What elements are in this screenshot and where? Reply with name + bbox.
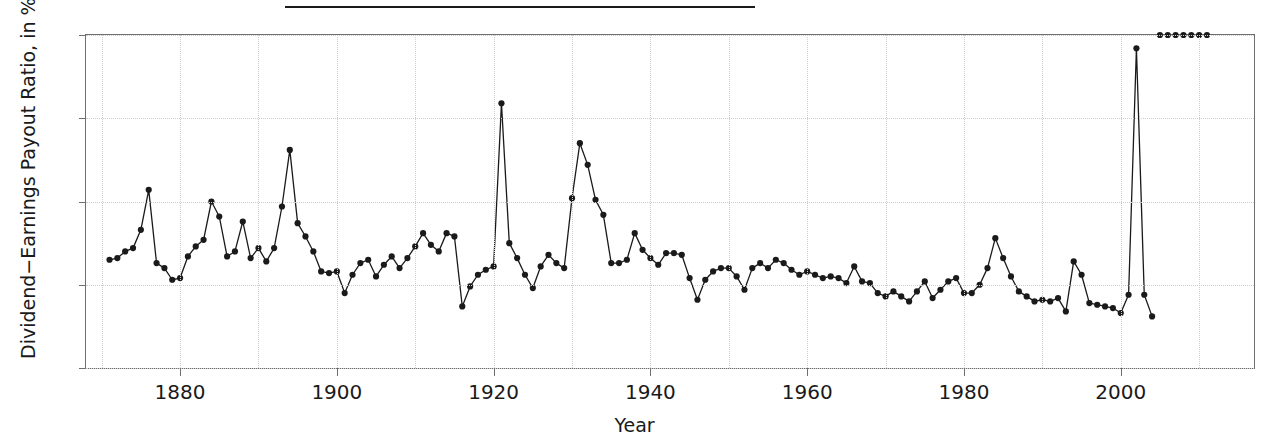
data-point-marker — [679, 252, 685, 258]
data-point-marker — [1078, 272, 1084, 278]
data-point-marker — [741, 287, 747, 293]
data-point-marker — [1047, 298, 1053, 304]
data-point-marker — [835, 275, 841, 281]
data-point-marker — [757, 260, 763, 266]
x-axis-tick-label: 1900 — [292, 380, 382, 404]
data-point-marker — [302, 233, 308, 239]
x-axis-tick-label: 2000 — [1076, 380, 1166, 404]
x-axis-tick — [964, 368, 965, 376]
data-point-marker — [200, 237, 206, 243]
data-point-marker — [1008, 273, 1014, 279]
data-point-marker — [585, 162, 591, 168]
data-point-marker — [773, 257, 779, 263]
data-point-marker — [295, 220, 301, 226]
data-point-marker — [577, 140, 583, 146]
data-point-marker — [687, 275, 693, 281]
data-point-marker — [1110, 305, 1116, 311]
y-axis-tick — [79, 35, 86, 36]
data-point-marker — [326, 270, 332, 276]
plot-area: 0501001502001880190019201940196019802000 — [85, 34, 1255, 369]
data-point-marker — [663, 250, 669, 256]
gridline-horizontal — [86, 118, 1254, 119]
x-axis-tick — [650, 368, 651, 376]
data-point-marker — [318, 268, 324, 274]
data-point-marker — [357, 260, 363, 266]
data-point-marker — [514, 255, 520, 261]
data-point-marker — [930, 295, 936, 301]
data-point-marker — [1141, 292, 1147, 298]
data-point-marker — [1000, 255, 1006, 261]
data-point-marker — [396, 265, 402, 271]
data-point-marker — [945, 278, 951, 284]
data-point-marker — [451, 233, 457, 239]
data-point-marker — [153, 260, 159, 266]
data-point-marker — [475, 272, 481, 278]
x-axis-tick — [180, 368, 181, 376]
y-axis-tick — [79, 118, 86, 119]
series-line — [110, 48, 1153, 316]
x-axis-tick — [494, 368, 495, 376]
data-point-marker — [969, 290, 975, 296]
data-point-marker — [1071, 258, 1077, 264]
data-point-marker — [389, 253, 395, 259]
data-point-marker — [483, 267, 489, 273]
plot-inner — [86, 35, 1254, 368]
data-point-marker — [420, 230, 426, 236]
data-point-marker — [106, 257, 112, 263]
data-point-marker — [1102, 303, 1108, 309]
data-point-marker — [851, 263, 857, 269]
data-point-marker — [624, 257, 630, 263]
data-point-marker — [216, 213, 222, 219]
data-point-marker — [506, 240, 512, 246]
data-point-marker — [812, 272, 818, 278]
data-point-marker — [820, 275, 826, 281]
data-point-marker — [914, 288, 920, 294]
data-point-marker — [436, 248, 442, 254]
data-point-marker — [122, 248, 128, 254]
data-point-marker — [1024, 293, 1030, 299]
data-point-marker — [898, 293, 904, 299]
data-point-marker — [161, 265, 167, 271]
data-point-marker — [608, 260, 614, 266]
data-point-marker — [671, 250, 677, 256]
data-point-marker — [600, 212, 606, 218]
data-point-marker — [734, 273, 740, 279]
data-point-marker — [1125, 292, 1131, 298]
data-point-marker — [922, 278, 928, 284]
data-point-marker — [1063, 308, 1069, 314]
data-point-marker — [138, 227, 144, 233]
x-axis-tick — [337, 368, 338, 376]
chart-figure: Dividend−Earnings Payout Ratio, in % 050… — [0, 0, 1269, 444]
data-point-marker — [765, 265, 771, 271]
data-point-marker — [890, 288, 896, 294]
data-point-marker — [530, 285, 536, 291]
data-point-marker — [702, 277, 708, 283]
y-axis-tick — [79, 202, 86, 203]
gridline-horizontal — [86, 285, 1254, 286]
data-point-marker — [984, 265, 990, 271]
gridline-horizontal — [86, 368, 1254, 369]
x-axis-tick-label: 1920 — [449, 380, 539, 404]
data-point-marker — [373, 273, 379, 279]
data-point-marker — [240, 218, 246, 224]
data-point-marker — [859, 278, 865, 284]
data-point-marker — [694, 297, 700, 303]
data-point-marker — [263, 258, 269, 264]
data-point-marker — [342, 290, 348, 296]
title-underline — [285, 6, 755, 8]
data-point-marker — [287, 147, 293, 153]
data-point-marker — [710, 268, 716, 274]
x-axis-tick — [1121, 368, 1122, 376]
data-point-marker — [538, 263, 544, 269]
data-point-marker — [718, 265, 724, 271]
data-point-marker — [1149, 313, 1155, 319]
data-point-marker — [749, 265, 755, 271]
data-point-marker — [279, 203, 285, 209]
gridline-horizontal — [86, 35, 1254, 36]
data-point-marker — [1133, 45, 1139, 51]
data-point-marker — [381, 262, 387, 268]
data-point-marker — [498, 100, 504, 106]
data-point-marker — [193, 243, 199, 249]
data-point-marker — [1086, 300, 1092, 306]
data-point-marker — [169, 277, 175, 283]
